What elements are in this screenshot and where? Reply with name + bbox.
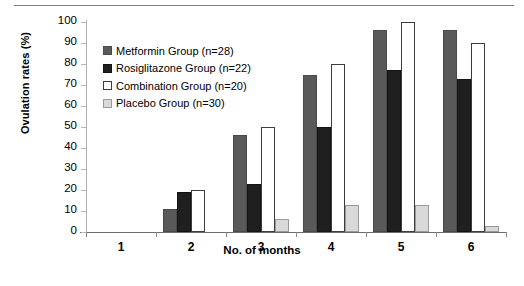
y-tick-label: 10 xyxy=(64,203,77,215)
y-tick-label: 70 xyxy=(64,77,77,89)
y-tick-mark xyxy=(81,169,86,170)
bar xyxy=(387,70,401,232)
x-tick-mark xyxy=(296,232,297,237)
x-tick-mark xyxy=(226,232,227,237)
y-tick-label: 40 xyxy=(64,140,77,152)
legend-label: Placebo Group (n=30) xyxy=(116,97,225,109)
y-tick-mark xyxy=(81,22,86,23)
legend-swatch xyxy=(103,99,112,108)
bar xyxy=(457,79,471,232)
legend-item: Rosiglitazone Group (n=22) xyxy=(103,61,251,76)
legend-item: Placebo Group (n=30) xyxy=(103,96,251,111)
y-tick-label: 30 xyxy=(64,161,77,173)
bar xyxy=(331,64,345,232)
y-tick-label: 60 xyxy=(64,98,77,110)
y-tick-mark xyxy=(81,190,86,191)
bar xyxy=(471,43,485,232)
y-tick-label: 80 xyxy=(64,56,77,68)
bar xyxy=(317,127,331,232)
bar xyxy=(443,30,457,232)
bar-group xyxy=(303,22,359,232)
bar xyxy=(233,135,247,232)
bar xyxy=(177,192,191,232)
ovulation-rates-bar-chart: Ovulation rates (%) 10090807060504030201… xyxy=(0,0,524,286)
x-tick-mark xyxy=(436,232,437,237)
bar xyxy=(275,219,289,232)
bar xyxy=(373,30,387,232)
y-tick-label: 100 xyxy=(58,14,77,26)
legend-label: Combination Group (n=20) xyxy=(116,80,247,92)
x-axis-line xyxy=(80,232,506,233)
bar xyxy=(485,226,499,232)
legend-item: Metformin Group (n=28) xyxy=(103,43,251,58)
legend-swatch xyxy=(103,64,112,73)
bar xyxy=(247,184,261,232)
y-tick-mark xyxy=(81,64,86,65)
bar-group xyxy=(373,22,429,232)
legend-swatch xyxy=(103,46,112,55)
legend-item: Combination Group (n=20) xyxy=(103,78,251,93)
legend-label: Rosiglitazone Group (n=22) xyxy=(116,62,251,74)
bar xyxy=(303,75,317,233)
legend-swatch xyxy=(103,81,112,90)
bar xyxy=(401,22,415,232)
y-tick-label: 0 xyxy=(71,224,77,236)
y-tick-mark xyxy=(81,43,86,44)
top-divider xyxy=(14,5,514,6)
y-tick-mark xyxy=(81,148,86,149)
x-tick-mark xyxy=(506,232,507,237)
y-tick-label: 20 xyxy=(64,182,77,194)
bar xyxy=(415,205,429,232)
y-tick-label: 90 xyxy=(64,35,77,47)
x-axis-title: No. of months xyxy=(0,244,524,256)
x-tick-mark xyxy=(156,232,157,237)
legend: Metformin Group (n=28)Rosiglitazone Grou… xyxy=(103,43,251,113)
bar xyxy=(261,127,275,232)
y-tick-mark xyxy=(81,85,86,86)
bar-group xyxy=(443,22,499,232)
x-tick-mark xyxy=(366,232,367,237)
y-tick-mark xyxy=(81,106,86,107)
bar xyxy=(163,209,177,232)
x-tick-mark xyxy=(86,232,87,237)
bar xyxy=(345,205,359,232)
bar xyxy=(191,190,205,232)
y-tick-mark xyxy=(81,127,86,128)
y-axis-line xyxy=(86,20,87,234)
legend-label: Metformin Group (n=28) xyxy=(116,45,234,57)
y-axis-title: Ovulation rates (%) xyxy=(19,3,37,163)
y-tick-label: 50 xyxy=(64,119,77,131)
y-tick-mark xyxy=(81,211,86,212)
